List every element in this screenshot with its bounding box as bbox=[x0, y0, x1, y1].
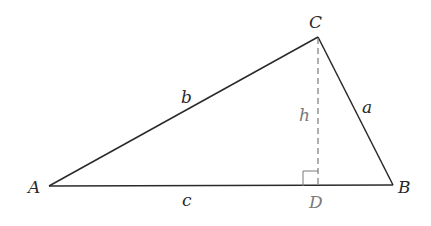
side-label-c: c bbox=[182, 190, 192, 210]
triangle-diagram: A B C D b a c h bbox=[0, 0, 431, 226]
side-b bbox=[49, 37, 318, 186]
side-label-b: b bbox=[181, 87, 192, 107]
side-c bbox=[49, 185, 393, 186]
right-angle-marker bbox=[303, 171, 318, 186]
side-a bbox=[318, 37, 393, 185]
vertex-label-c: C bbox=[309, 12, 322, 32]
altitude-label-h: h bbox=[299, 105, 310, 125]
vertex-label-a: A bbox=[26, 177, 40, 197]
side-label-a: a bbox=[362, 97, 372, 117]
vertex-label-b: B bbox=[397, 177, 411, 197]
foot-label-d: D bbox=[308, 192, 323, 212]
